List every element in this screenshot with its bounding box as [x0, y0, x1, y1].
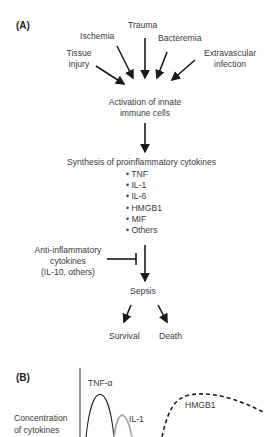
- arrow-extravascular: [172, 60, 195, 80]
- tnf-curve: [86, 394, 114, 437]
- arrow-tissue-injury: [96, 66, 124, 84]
- arrow-ischemia: [117, 46, 133, 78]
- arrow-bacteremia: [157, 52, 167, 78]
- arrow-death: [158, 305, 167, 322]
- arrow-survival: [124, 305, 131, 322]
- il1-curve: [114, 415, 132, 437]
- diagram-graphics: [0, 0, 279, 437]
- inhibition-bar: [107, 253, 136, 265]
- hmgb1-curve: [162, 394, 265, 437]
